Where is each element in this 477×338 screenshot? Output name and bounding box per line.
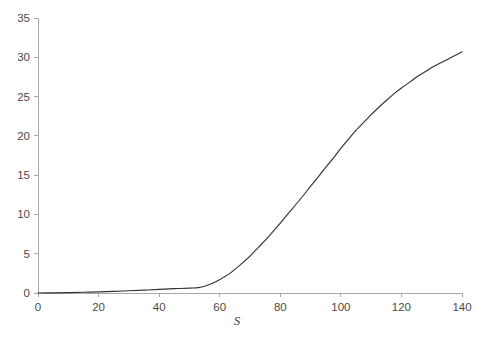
y-tick-labels: 05101520253035 — [17, 12, 30, 299]
line-chart: 05101520253035 020406080100120140 S — [0, 0, 477, 338]
x-axis: 020406080100120140 — [35, 293, 472, 313]
y-tick-label: 10 — [17, 208, 30, 220]
x-tick-label: 100 — [331, 301, 350, 313]
data-series-curve — [38, 52, 462, 293]
x-tick-label: 0 — [35, 301, 41, 313]
x-tick-labels: 020406080100120140 — [35, 301, 472, 313]
x-tick-marks — [38, 293, 462, 297]
y-tick-label: 35 — [17, 12, 30, 24]
y-tick-marks — [34, 18, 38, 293]
y-tick-label: 5 — [24, 248, 30, 260]
x-tick-label: 20 — [92, 301, 105, 313]
x-tick-label: 40 — [153, 301, 166, 313]
x-tick-label: 60 — [213, 301, 226, 313]
x-tick-label: 120 — [392, 301, 411, 313]
x-axis-title: S — [234, 313, 241, 328]
chart-figure: 05101520253035 020406080100120140 S — [0, 0, 477, 338]
y-tick-label: 0 — [24, 287, 30, 299]
x-tick-label: 140 — [452, 301, 471, 313]
y-tick-label: 25 — [17, 91, 30, 103]
y-tick-label: 20 — [17, 130, 30, 142]
y-tick-label: 30 — [17, 51, 30, 63]
y-tick-label: 15 — [17, 169, 30, 181]
x-tick-label: 80 — [274, 301, 287, 313]
plot-series-group — [38, 52, 462, 293]
y-axis: 05101520253035 — [17, 12, 38, 299]
